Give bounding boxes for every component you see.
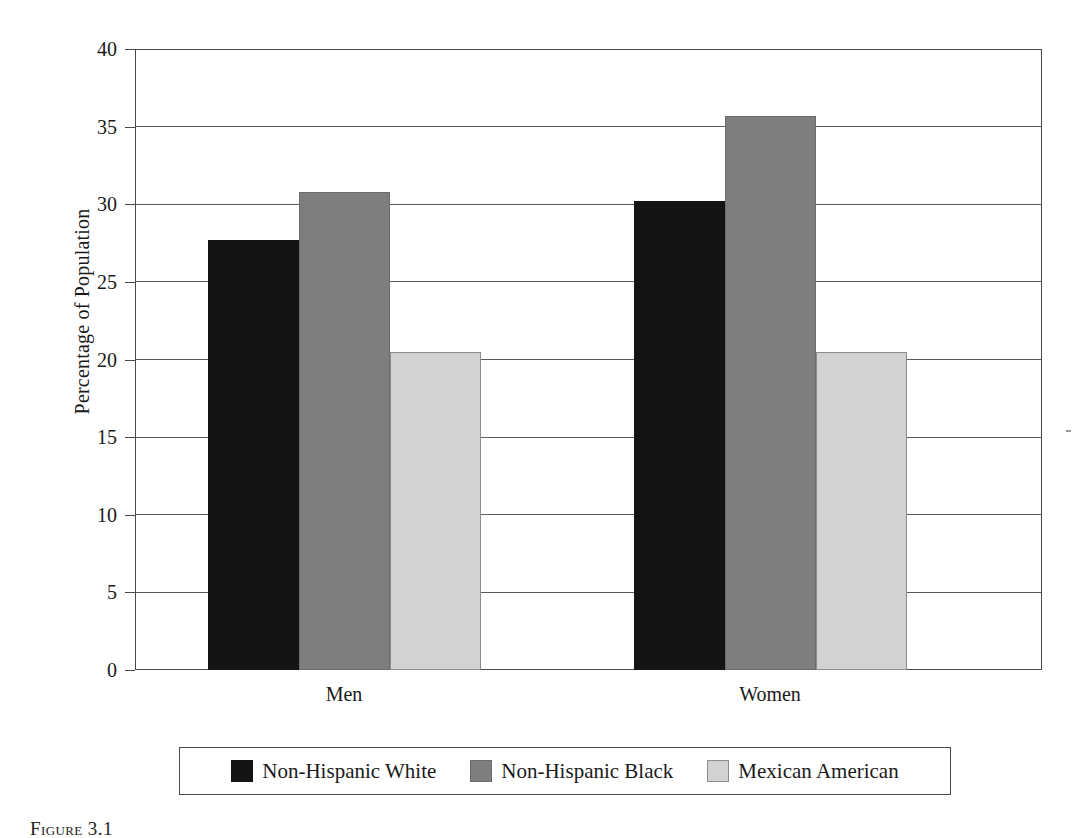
light-gray-swatch [707, 760, 729, 782]
y-tick-mark-5 [125, 592, 135, 593]
y-tick-label-25: 25 [59, 272, 117, 292]
bar [390, 352, 481, 670]
y-tick-label-15: 15 [59, 427, 117, 447]
y-tick-mark-35 [125, 127, 135, 128]
y-tick-label-35: 35 [59, 117, 117, 137]
legend-label: Mexican American [738, 759, 898, 784]
x-category-label-men: Men [326, 683, 363, 706]
y-tick-mark-30 [125, 204, 135, 205]
scan-artifact-speck [1066, 430, 1071, 432]
y-tick-mark-40 [125, 49, 135, 50]
gray-swatch [470, 760, 492, 782]
bars-layer [135, 49, 1042, 670]
y-tick-label-20: 20 [59, 350, 117, 370]
y-tick-label-0: 0 [59, 660, 117, 680]
legend-label: Non-Hispanic White [262, 759, 436, 784]
legend-label: Non-Hispanic Black [501, 759, 673, 784]
figure-caption: Figure 3.1 [30, 818, 113, 838]
y-tick-label-30: 30 [59, 194, 117, 214]
legend-entry: Non-Hispanic Black [470, 759, 673, 784]
y-tick-mark-15 [125, 437, 135, 438]
bar [299, 192, 390, 670]
black-swatch [231, 760, 253, 782]
x-category-label-women: Women [739, 683, 801, 706]
y-tick-mark-10 [125, 515, 135, 516]
bar [816, 352, 907, 670]
bar [208, 240, 299, 670]
y-tick-label-10: 10 [59, 505, 117, 525]
y-tick-label-5: 5 [59, 582, 117, 602]
legend-entry: Mexican American [707, 759, 898, 784]
figure-container: Percentage of Population 051015202530354… [0, 0, 1083, 838]
y-tick-mark-20 [125, 360, 135, 361]
y-tick-label-40: 40 [59, 39, 117, 59]
legend-entry: Non-Hispanic White [231, 759, 436, 784]
y-tick-mark-0 [125, 670, 135, 671]
bar [725, 116, 816, 670]
chart-legend: Non-Hispanic WhiteNon-Hispanic BlackMexi… [179, 747, 951, 795]
bar [634, 201, 725, 670]
y-tick-mark-25 [125, 282, 135, 283]
